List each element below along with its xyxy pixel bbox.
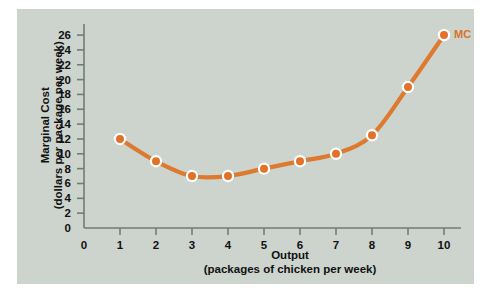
data-point-marker	[439, 30, 449, 40]
data-point-marker	[187, 171, 197, 181]
data-point-marker	[295, 156, 305, 166]
data-point-marker	[151, 156, 161, 166]
data-point-marker	[259, 164, 269, 174]
y-axis-title: Marginal Cost (dollars per package per w…	[39, 25, 65, 225]
data-point-marker	[403, 82, 413, 92]
y-axis-title-main: Marginal Cost	[39, 25, 52, 225]
marginal-cost-curve	[120, 35, 444, 177]
data-point-marker	[331, 149, 341, 159]
marginal-cost-data-points	[115, 30, 449, 181]
x-axis-ticks	[120, 228, 444, 235]
axis-spines	[84, 24, 461, 228]
series-label-mc: MC	[454, 28, 471, 40]
data-point-marker	[367, 130, 377, 140]
data-point-marker	[223, 171, 233, 181]
y-axis-title-sub: (dollars per package per week)	[52, 25, 65, 225]
x-axis-title-sub: (packages of chicken per week)	[84, 263, 488, 277]
data-point-marker	[115, 134, 125, 144]
y-axis-ticks	[77, 35, 84, 213]
x-axis-title-main: Output	[84, 249, 488, 263]
chart-figure: 02468101214161820222426 012345678910 Mar…	[0, 0, 488, 299]
x-axis-title: Output (packages of chicken per week)	[84, 249, 488, 276]
